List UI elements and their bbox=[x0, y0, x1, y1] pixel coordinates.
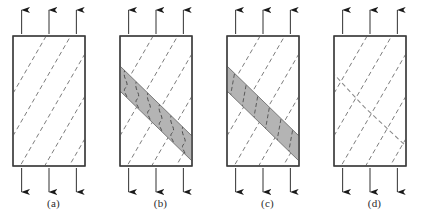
figure-root: (a)(b)(c)(d) bbox=[0, 0, 429, 220]
panel-a: (a) bbox=[0, 0, 107, 220]
panel-a-drawing bbox=[0, 0, 107, 196]
panel-c-drawing bbox=[214, 0, 321, 196]
panel-b-label: (b) bbox=[107, 196, 214, 210]
rotated-layer-line bbox=[218, 56, 224, 89]
rotated-layer-line bbox=[299, 135, 305, 168]
panel-d: (d) bbox=[321, 0, 428, 220]
specimen-outline bbox=[334, 36, 406, 166]
panel-b-drawing bbox=[107, 0, 214, 196]
specimen-outline bbox=[13, 36, 85, 166]
panel-b: (b) bbox=[107, 0, 214, 220]
panel-a-label: (a) bbox=[0, 196, 107, 210]
panel-c-label: (c) bbox=[214, 196, 321, 210]
buckled-layer-line bbox=[112, 57, 115, 88]
panel-c: (c) bbox=[214, 0, 321, 220]
panel-d-drawing bbox=[321, 0, 428, 196]
panel-d-label: (d) bbox=[321, 196, 428, 210]
buckled-layer-line bbox=[194, 136, 197, 167]
